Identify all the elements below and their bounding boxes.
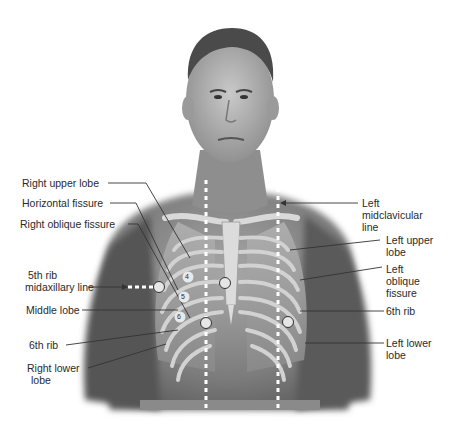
label-6th-rib-right: 6th rib	[29, 339, 58, 351]
rib-number-5: 5	[181, 291, 185, 303]
label-horizontal-fissure: Horizontal fissure	[22, 197, 103, 209]
label-left-midclavicular-line3: line	[362, 221, 378, 233]
label-left-oblique-fissure-line1: Left	[386, 263, 404, 275]
label-left-upper-lobe-line1: Left upper	[386, 234, 433, 246]
rib-number-6: 6	[177, 311, 181, 323]
label-left-oblique-fissure-line2: oblique	[386, 275, 420, 287]
rib-number-4: 4	[185, 271, 189, 283]
label-5th-rib: 5th rib	[28, 269, 57, 281]
label-6th-rib-left: 6th rib	[386, 305, 415, 317]
label-midaxillary-line: midaxillary line	[25, 281, 94, 293]
head	[182, 28, 279, 162]
label-left-lower-lobe-line2: lobe	[386, 349, 406, 361]
marker-right-6th	[201, 318, 212, 329]
label-left-upper-lobe-line2: lobe	[386, 246, 406, 258]
marker-left-6th	[283, 317, 294, 328]
label-right-lower-lobe-line1: Right lower	[27, 362, 80, 374]
anatomy-diagram: 4 5 6 Right upper lobe Horizontal fissur…	[0, 0, 456, 428]
label-left-midclavicular-line1: Left	[362, 197, 380, 209]
marker-right-4th	[220, 278, 231, 289]
label-right-lower-lobe-line2: lobe	[31, 374, 51, 386]
label-right-oblique-fissure: Right oblique fissure	[20, 218, 115, 230]
label-right-upper-lobe: Right upper lobe	[22, 177, 99, 189]
label-left-midclavicular-line2: midclavicular	[362, 209, 423, 221]
label-middle-lobe: Middle lobe	[26, 304, 80, 316]
marker-midaxillary	[154, 282, 165, 293]
label-left-oblique-fissure-line3: fissure	[386, 287, 417, 299]
label-left-lower-lobe-line1: Left lower	[386, 337, 432, 349]
